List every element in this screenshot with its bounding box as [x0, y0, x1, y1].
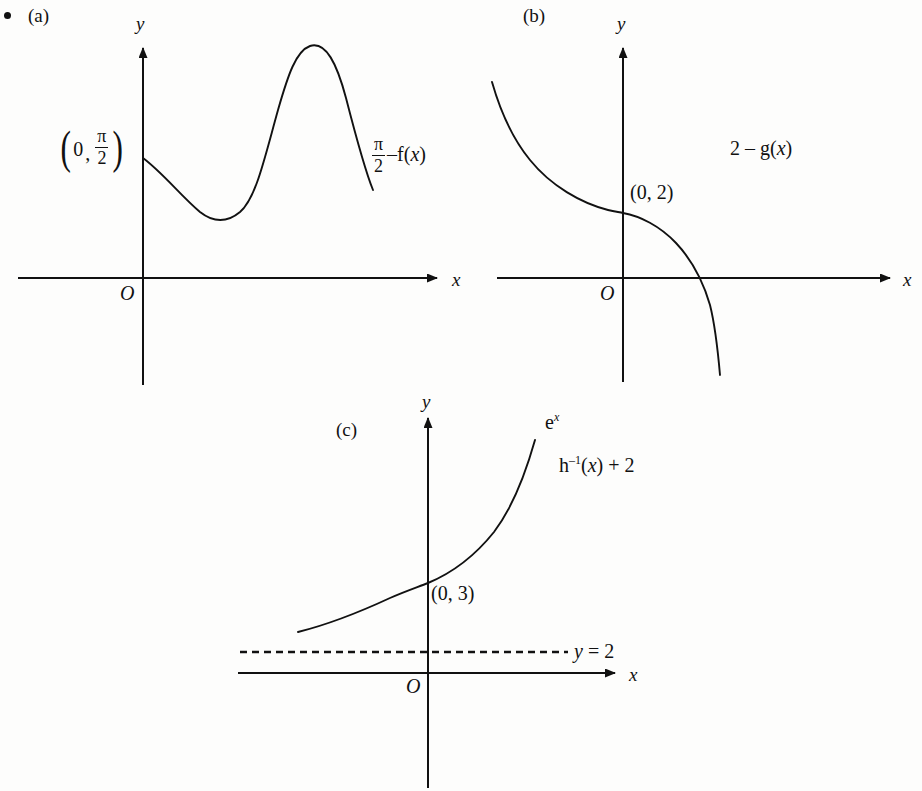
- panel-b-curve-prefix: 2 – g(: [730, 137, 777, 159]
- panel-a-curve-operator: –: [387, 143, 397, 165]
- asymptote-variable: y: [574, 640, 583, 662]
- panel-b-y-axis-label: y: [617, 14, 625, 33]
- panel-a-curve-label: π 2 –f(x): [370, 136, 426, 177]
- inverse-function-exponent: –1: [569, 453, 581, 467]
- panel-a-x-axis-label: x: [452, 270, 460, 289]
- asymptote-value: = 2: [583, 640, 614, 662]
- panel-a-point-inner: 0 , π 2: [73, 128, 110, 169]
- panel-a-point-comma: ,: [85, 143, 90, 163]
- panel-a-point-group: ( 0 , π 2 ): [58, 128, 126, 169]
- panel-c-curve-label-main: h–1(x) + 2: [559, 455, 635, 475]
- panel-a-point-label: ( 0 , π 2 ): [58, 128, 126, 169]
- panel-b-curve-variable: x: [777, 137, 786, 159]
- panel-a-curve-tail: ): [419, 143, 426, 165]
- panel-a-point-fraction: π 2: [95, 127, 108, 168]
- panel-b-curve-label: 2 – g(x): [730, 138, 792, 158]
- panel-c-asymptote-label: y = 2: [574, 641, 614, 661]
- panel-b-point-label: (0, 2): [630, 182, 673, 202]
- exponential-exponent: x: [554, 410, 559, 424]
- panel-a-curve-variable: x: [410, 143, 419, 165]
- open-paren-glyph: (: [60, 130, 70, 166]
- panel-c-point-label: (0, 3): [431, 583, 474, 603]
- panel-b-tag: (b): [523, 6, 545, 25]
- panel-b-curve-tail: ): [786, 137, 793, 159]
- panel-b-curve: [492, 82, 720, 375]
- inverse-function-prefix: h: [559, 454, 569, 476]
- panel-c-origin-label: O: [406, 676, 420, 696]
- fraction-numerator: π: [95, 127, 108, 146]
- fraction-denominator: 2: [95, 149, 108, 168]
- inverse-function-close: ) + 2: [597, 454, 635, 476]
- inverse-function-variable: x: [588, 454, 597, 476]
- panel-a-point-x: 0: [73, 139, 83, 159]
- panel-a-tag: (a): [28, 6, 49, 25]
- panel-a-curve-function: f(: [397, 143, 410, 165]
- question-bullet: [4, 12, 11, 19]
- panel-c-curve: [298, 440, 535, 632]
- figure-sheet: (a) y x O ( 0 , π 2 ) π 2 –f(x) (b): [0, 0, 922, 791]
- fraction-numerator: π: [372, 135, 385, 154]
- panel-a-y-axis-label: y: [136, 14, 144, 33]
- panel-a-graph: [18, 45, 437, 385]
- figure-vector-layer: [0, 0, 922, 791]
- panel-b-origin-label: O: [600, 283, 614, 303]
- panel-b-graph: [492, 48, 890, 382]
- panel-c-curve-label-top: ex: [545, 412, 559, 432]
- panel-b-x-axis-label: x: [903, 270, 911, 289]
- fraction-denominator: 2: [372, 157, 385, 176]
- panel-c-x-axis-label: x: [629, 665, 637, 684]
- panel-c-y-axis-label: y: [422, 392, 430, 411]
- exponential-base: e: [545, 411, 554, 433]
- panel-c-tag: (c): [336, 420, 357, 439]
- panel-a-curve-fraction: π 2: [372, 135, 385, 176]
- panel-a-origin-label: O: [120, 283, 134, 303]
- inverse-function-open: (: [581, 454, 588, 476]
- close-paren-glyph: ): [113, 130, 123, 166]
- panel-a-curve: [143, 45, 373, 220]
